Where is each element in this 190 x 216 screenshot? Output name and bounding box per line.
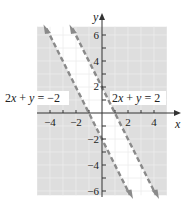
y-tick-label: −2 [87,133,99,145]
y-axis-arrow-icon [99,13,105,20]
y-tick-label: 6 [94,29,100,41]
x-axis-arrow-icon [174,110,181,116]
inequality-graph: 2x + y = −2 2x + y = 2 [0,0,190,216]
eq-label-right: 2x + y = 2 [112,91,160,105]
x-tick-label: 2 [125,116,131,128]
y-tick-label: 2 [94,80,100,92]
x-tick-label: −2 [70,116,82,128]
x-tick-label: −4 [44,116,56,128]
y-tick-label: −6 [87,185,99,197]
y-axis-label: y [92,10,99,24]
eq-label-left: 2x + y = −2 [5,91,60,105]
x-axis-label: x [174,117,181,131]
y-tick-label: 4 [94,55,100,67]
y-tick-label: −4 [87,159,99,171]
x-tick-label: 4 [151,116,157,128]
